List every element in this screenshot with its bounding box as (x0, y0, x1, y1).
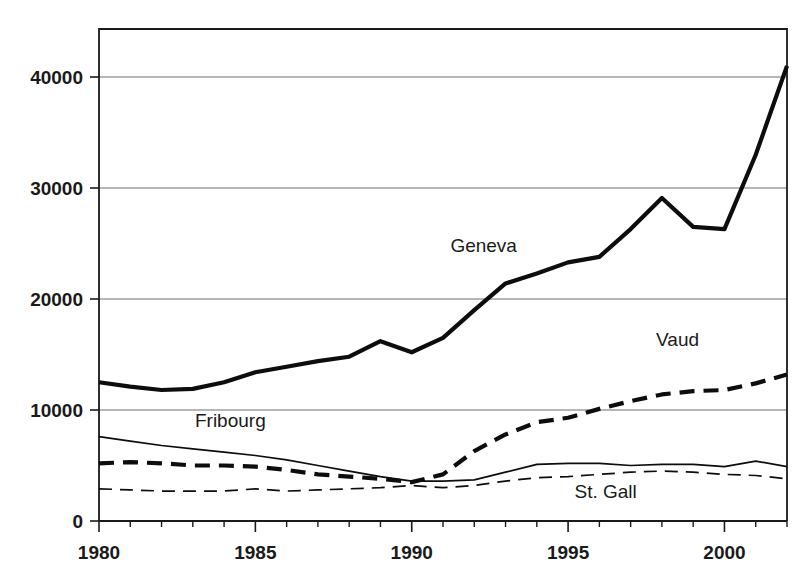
line-chart: 010000200003000040000 198019851990199520… (0, 0, 807, 581)
y-tick-label-20000: 20000 (30, 289, 83, 310)
chart-container: 010000200003000040000 198019851990199520… (0, 0, 807, 581)
y-tick-label-10000: 10000 (30, 400, 83, 421)
x-tick-label-2000: 2000 (703, 542, 745, 563)
y-tick-label-40000: 40000 (30, 67, 83, 88)
series-label-vaud: Vaud (656, 329, 699, 350)
x-tick-label-1995: 1995 (547, 542, 590, 563)
series-label-st-gall: St. Gall (574, 481, 636, 502)
chart-background (0, 0, 807, 581)
series-label-fribourg: Fribourg (195, 410, 266, 431)
x-tick-label-1990: 1990 (391, 542, 433, 563)
series-label-geneva: Geneva (450, 235, 517, 256)
x-tick-label-1980: 1980 (78, 542, 120, 563)
y-tick-label-0: 0 (72, 511, 83, 532)
y-tick-label-30000: 30000 (30, 178, 83, 199)
x-tick-label-1985: 1985 (234, 542, 277, 563)
